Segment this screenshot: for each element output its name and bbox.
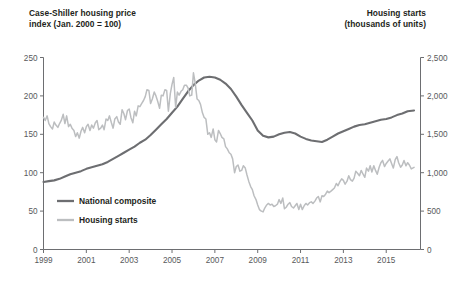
y2-axis-tick-label: 0 <box>427 246 432 255</box>
y-axis-tick-label: 200 <box>24 92 38 101</box>
x-axis-tick-label: 2011 <box>292 256 310 265</box>
series-line-housing-starts <box>44 73 415 212</box>
chart-svg: 05010015020025005001,0001,5002,0002,5001… <box>0 0 470 282</box>
y-axis-tick-label: 250 <box>24 54 38 63</box>
x-axis-tick-label: 2013 <box>334 256 353 265</box>
x-axis-tick-label: 2003 <box>120 256 139 265</box>
y2-axis-tick-label: 2,000 <box>427 92 448 101</box>
legend-label-national_composite: National composite <box>79 196 157 206</box>
x-axis-tick-label: 2015 <box>377 256 396 265</box>
y-axis-tick-label: 100 <box>24 169 38 178</box>
x-axis-tick-label: 2001 <box>77 256 96 265</box>
y2-axis-tick-label: 2,500 <box>427 54 448 63</box>
chart-container: Case-Shiller housing price index (Jan. 2… <box>0 0 470 282</box>
y2-axis-tick-label: 1,000 <box>427 169 448 178</box>
x-axis-tick-label: 2009 <box>249 256 268 265</box>
x-axis-tick-label: 2007 <box>206 256 225 265</box>
legend-label-housing_starts: Housing starts <box>79 215 138 225</box>
y-axis-tick-label: 150 <box>24 130 38 139</box>
x-axis-tick-label: 1999 <box>34 256 53 265</box>
x-axis-tick-label: 2005 <box>163 256 182 265</box>
y-axis-tick-label: 50 <box>28 207 38 216</box>
y-axis-tick-label: 0 <box>33 246 38 255</box>
y2-axis-tick-label: 1,500 <box>427 130 448 139</box>
legend-group: National compositeHousing starts <box>57 196 157 225</box>
series-group <box>44 73 415 212</box>
axes-group: 05010015020025005001,0001,5002,0002,5001… <box>24 54 448 265</box>
y2-axis-tick-label: 500 <box>427 207 441 216</box>
